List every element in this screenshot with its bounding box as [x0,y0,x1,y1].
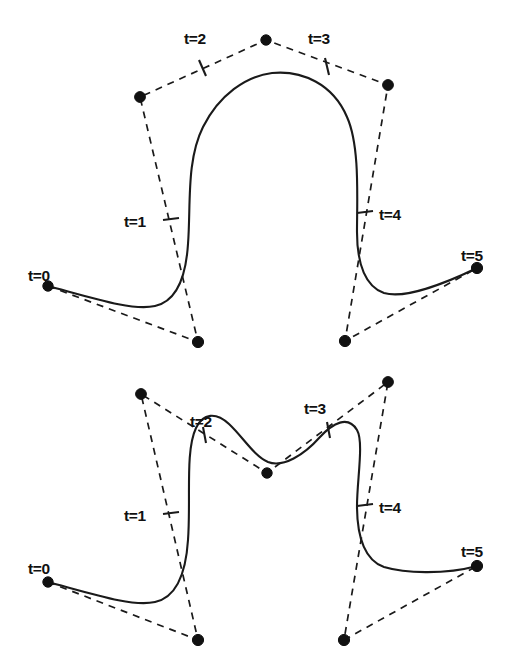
lower-spline-figure: t=0t=1t=2t=3t=4t=5 [28,377,483,646]
knot-label: t=0 [28,267,50,284]
control-point-dot [192,336,203,347]
control-point-dot [192,634,203,645]
control-point-dot [471,560,482,571]
knot-label: t=5 [461,543,483,560]
control-point-dot [262,468,272,478]
control-point-dot [135,92,146,103]
tick-t3-mark [325,58,329,75]
control-point-dot [383,80,394,91]
knot-label: t=2 [184,30,206,47]
knot-label: t=3 [308,30,330,47]
upper-spline-figure: t=0t=1t=2t=3t=4t=5 [28,30,483,348]
tick-t4-mark [357,504,373,506]
tick-t4-mark [357,211,373,213]
knot-label: t=0 [28,560,50,577]
knot-label: t=1 [124,213,146,230]
control-point-dot [338,634,349,645]
control-point-dot [339,335,350,346]
spline-figure-page: t=0t=1t=2t=3t=4t=5t=0t=1t=2t=3t=4t=5 [0,0,516,670]
spline-curve [48,416,477,603]
spline-figure-canvas: t=0t=1t=2t=3t=4t=5t=0t=1t=2t=3t=4t=5 [0,0,516,670]
panels-root: t=0t=1t=2t=3t=4t=5t=0t=1t=2t=3t=4t=5 [28,30,483,646]
knot-label: t=5 [461,247,483,264]
control-polygon [48,40,477,342]
tick-t1-mark [163,512,179,514]
tick-t1-mark [163,218,179,220]
control-point-dot [261,35,271,45]
control-point-dot [471,262,482,273]
knot-label: t=4 [379,206,401,223]
control-point-dot [136,389,147,400]
knot-label: t=3 [304,400,326,417]
control-point-dot [43,577,53,587]
control-point-dot [383,377,394,388]
knot-label: t=2 [190,413,212,430]
knot-label: t=1 [124,507,146,524]
tick-t3-mark [327,422,330,438]
spline-curve [48,73,477,308]
control-polygon [48,382,477,640]
knot-label: t=4 [379,499,401,516]
